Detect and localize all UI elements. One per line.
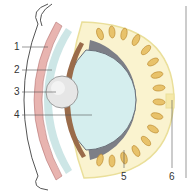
label-2: 2: [14, 65, 20, 75]
label-6: 6: [169, 172, 175, 182]
label-1: 1: [14, 42, 20, 52]
label-3: 3: [14, 87, 20, 97]
label-4: 4: [14, 110, 20, 120]
diagram-canvas: 1 2 3 4 5 6: [0, 0, 192, 192]
label-5: 5: [121, 172, 127, 182]
anatomy-diagram: [0, 0, 192, 192]
nerve-box: [166, 94, 174, 108]
